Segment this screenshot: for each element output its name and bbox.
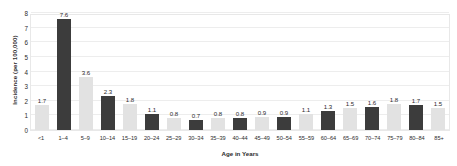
bar-25–29: 0.8 [167, 118, 181, 130]
bar-50–54: 0.9 [277, 117, 291, 130]
bar-slot: 1.8 [383, 15, 405, 130]
y-tick-8: 8 [12, 10, 28, 18]
x-tick-1–4: 1–4 [52, 133, 74, 143]
bar-value-label: 2.3 [104, 88, 112, 95]
bar-45–49: 0.9 [255, 117, 269, 130]
bar-80–84: 1.7 [409, 105, 423, 130]
bar-40–44: 0.8 [233, 118, 247, 130]
bar-slot: 1.5 [339, 15, 361, 130]
y-tick-5: 5 [12, 54, 28, 62]
bar-value-label: 1.5 [434, 100, 442, 107]
bar-60–64: 1.3 [321, 111, 335, 130]
bar-30–34: 0.7 [189, 120, 203, 130]
bar-value-label: 1.7 [38, 97, 46, 104]
bar-1–4: 7.6 [57, 19, 71, 130]
x-tick-40–44: 40–44 [229, 133, 251, 143]
bar-slot: 7.6 [53, 15, 75, 130]
x-axis-tick-labels: <11–45–910–1415–1920–2425–2930–3435–3940… [30, 133, 450, 143]
x-axis-title: Age in Years [30, 149, 450, 159]
bar-slot: 0.8 [229, 15, 251, 130]
gridline-8 [31, 12, 449, 13]
bar-slot: 1.7 [31, 15, 53, 130]
bar-value-label: 0.8 [170, 110, 178, 117]
y-tick-3: 3 [12, 83, 28, 91]
x-tick-15–19: 15–19 [118, 133, 140, 143]
bar-value-label: 3.6 [82, 69, 90, 76]
bar-value-label: 1.1 [302, 106, 310, 113]
bar-value-label: 0.8 [236, 110, 244, 117]
bar-55–59: 1.1 [299, 114, 313, 130]
x-tick-50–54: 50–54 [273, 133, 295, 143]
x-tick-10–14: 10–14 [96, 133, 118, 143]
bar-slot: 0.8 [163, 15, 185, 130]
bar-chart: Incidence (per 100,000) 012345678 1.77.6… [0, 0, 457, 166]
bar-65–69: 1.5 [343, 108, 357, 130]
x-tick-55–59: 55–59 [295, 133, 317, 143]
bar-value-label: 1.7 [412, 97, 420, 104]
bar-slot: 1.7 [405, 15, 427, 130]
x-tick-85+: 85+ [428, 133, 450, 143]
bar-15–19: 1.8 [123, 104, 137, 130]
bar-value-label: 1.3 [324, 103, 332, 110]
x-tick-25–29: 25–29 [163, 133, 185, 143]
bar-slot: 3.6 [75, 15, 97, 130]
bar-value-label: 0.9 [258, 109, 266, 116]
bar-value-label: 1.8 [126, 96, 134, 103]
plot-area: 1.77.63.62.31.81.10.80.70.80.80.90.91.11… [30, 14, 450, 131]
bar-slot: 0.7 [185, 15, 207, 130]
bar-75–79: 1.8 [387, 104, 401, 130]
bar-slot: 1.5 [427, 15, 449, 130]
y-tick-2: 2 [12, 98, 28, 106]
bar-<1: 1.7 [35, 105, 49, 130]
bar-slot: 1.3 [317, 15, 339, 130]
x-tick-60–64: 60–64 [317, 133, 339, 143]
bar-slot: 1.1 [141, 15, 163, 130]
x-tick-70–74: 70–74 [362, 133, 384, 143]
x-tick-80–84: 80–84 [406, 133, 428, 143]
bar-value-label: 0.8 [214, 110, 222, 117]
y-tick-4: 4 [12, 69, 28, 77]
bar-slot: 0.9 [273, 15, 295, 130]
x-tick-65–69: 65–69 [340, 133, 362, 143]
bar-value-label: 7.6 [60, 11, 68, 18]
x-tick-45–49: 45–49 [251, 133, 273, 143]
bar-series: 1.77.63.62.31.81.10.80.70.80.80.90.91.11… [31, 15, 449, 130]
bar-70–74: 1.6 [365, 107, 379, 130]
x-tick-30–34: 30–34 [185, 133, 207, 143]
bar-10–14: 2.3 [101, 96, 115, 130]
bar-85+: 1.5 [431, 108, 445, 130]
bar-value-label: 0.9 [280, 109, 288, 116]
bar-slot: 2.3 [97, 15, 119, 130]
bar-slot: 1.1 [295, 15, 317, 130]
bar-value-label: 1.8 [390, 96, 398, 103]
x-tick-5–9: 5–9 [74, 133, 96, 143]
y-tick-0: 0 [12, 127, 28, 135]
y-tick-1: 1 [12, 112, 28, 120]
x-tick-35–39: 35–39 [207, 133, 229, 143]
bar-value-label: 1.5 [346, 100, 354, 107]
bar-value-label: 1.1 [148, 106, 156, 113]
y-tick-6: 6 [12, 39, 28, 47]
y-axis-tick-labels: 012345678 [12, 10, 28, 135]
bar-5–9: 3.6 [79, 77, 93, 130]
x-tick-<1: <1 [30, 133, 52, 143]
bar-35–39: 0.8 [211, 118, 225, 130]
bar-slot: 1.6 [361, 15, 383, 130]
bar-20–24: 1.1 [145, 114, 159, 130]
x-tick-20–24: 20–24 [141, 133, 163, 143]
bar-slot: 0.8 [207, 15, 229, 130]
bar-value-label: 0.7 [192, 112, 200, 119]
bar-slot: 1.8 [119, 15, 141, 130]
bar-value-label: 1.6 [368, 99, 376, 106]
y-tick-7: 7 [12, 25, 28, 33]
bar-slot: 0.9 [251, 15, 273, 130]
x-tick-75–79: 75–79 [384, 133, 406, 143]
